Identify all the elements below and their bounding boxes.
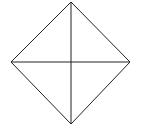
rhombus-diagram [0, 0, 141, 129]
